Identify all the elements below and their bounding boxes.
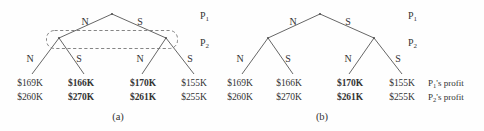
panel-a-branch-label-right-s: S xyxy=(187,54,193,64)
edge-a-right-n xyxy=(142,38,166,74)
player1-profit-note-suffix: 's profit xyxy=(436,78,463,88)
panel-b-leaf-2-p2-payoff: $270K xyxy=(276,93,301,103)
panel-b-leaf-3-p1-payoff: $170K xyxy=(337,79,363,89)
panel-a-edges xyxy=(32,13,194,74)
panel-a-leaf-4-p2-payoff: $255K xyxy=(181,93,206,103)
edge-a-left-n xyxy=(32,38,59,74)
player1-profit-note: P1's profit xyxy=(428,79,464,88)
panel-a-player1-text: P xyxy=(200,10,206,21)
panel-a-leaf-4-p1-payoff: $155K xyxy=(181,79,206,89)
panel-b-player1-text: P xyxy=(408,10,414,21)
panel-a-branch-label-left-s: S xyxy=(76,54,82,64)
panel-b-leaf-1-p2-payoff: $260K xyxy=(227,93,252,103)
player2-profit-note-sub: 2 xyxy=(433,96,436,103)
panel-a-branch-label-right-n: N xyxy=(136,54,143,64)
panel-a-root-branch-label-n: N xyxy=(81,17,88,27)
panel-a-player2-sub: 2 xyxy=(206,42,210,50)
player1-profit-note-sub: 1 xyxy=(433,82,436,89)
panel-b-leaf-4-p1-payoff: $155K xyxy=(389,79,414,89)
panel-a-caption: (a) xyxy=(112,112,124,123)
panel-a-leaf-2-p1-payoff: $166K xyxy=(68,79,94,89)
panel-b-branch-label-left-s: S xyxy=(285,54,291,64)
panel-b-leaf-3-p2-payoff: $261K xyxy=(337,93,363,103)
panel-a-player2-text: P xyxy=(200,37,206,48)
node-a-p2-left xyxy=(58,37,60,39)
panel-b-player2-label: P2 xyxy=(408,38,417,48)
panel-a-leaf-2-p2-payoff: $270K xyxy=(68,93,94,103)
panel-a-leaf-3-p2-payoff: $261K xyxy=(130,93,156,103)
edge-b-left-n xyxy=(242,38,268,74)
panel-a-player1-label: P1 xyxy=(200,11,209,21)
player2-profit-note-suffix: 's profit xyxy=(436,92,463,102)
game-tree-figure: N S N S N S P1 P2 $169K $260K $166K $270… xyxy=(0,0,484,131)
panel-b-root-branch-label-s: S xyxy=(345,17,351,27)
panel-b-leaf-2-p1-payoff: $166K xyxy=(276,79,301,89)
panel-b-caption: (b) xyxy=(316,112,328,123)
edge-b-right-n xyxy=(349,38,374,74)
panel-a-root-branch-label-s: S xyxy=(137,17,143,27)
node-b-root xyxy=(319,13,321,15)
node-b-p2-right xyxy=(373,37,375,39)
panel-a-leaf-1-p2-payoff: $260K xyxy=(17,93,42,103)
node-a-root xyxy=(111,13,113,15)
panel-b-edges xyxy=(242,13,402,74)
panel-a-branch-label-left-n: N xyxy=(26,54,33,64)
panel-b-player1-label: P1 xyxy=(408,11,417,21)
node-b-p2-left xyxy=(267,37,269,39)
panel-b-player2-sub: 2 xyxy=(414,42,418,50)
panel-b-player2-text: P xyxy=(408,37,414,48)
player2-profit-note: P2's profit xyxy=(428,93,464,102)
panel-a-player2-label: P2 xyxy=(200,38,209,48)
panel-a-leaf-1-p1-payoff: $169K xyxy=(17,79,42,89)
panel-b-root-branch-label-n: N xyxy=(289,17,296,27)
panel-b-branch-label-left-n: N xyxy=(236,54,243,64)
panel-b-branch-label-right-n: N xyxy=(344,54,351,64)
panel-a-player1-sub: 1 xyxy=(206,15,210,23)
panel-b-branch-label-right-s: S xyxy=(395,54,401,64)
panel-a-leaf-3-p1-payoff: $170K xyxy=(130,79,156,89)
panel-b-leaf-4-p2-payoff: $255K xyxy=(389,93,414,103)
panel-b-player1-sub: 1 xyxy=(414,15,418,23)
node-a-p2-right xyxy=(165,37,167,39)
information-set-box xyxy=(47,31,178,49)
panel-b-leaf-1-p1-payoff: $169K xyxy=(227,79,252,89)
